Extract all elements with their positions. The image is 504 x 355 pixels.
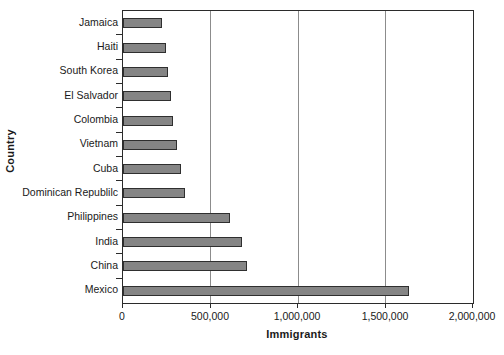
bar — [123, 164, 181, 174]
x-axis-tick — [385, 303, 386, 308]
y-axis-tick-label: Haiti — [14, 41, 118, 52]
x-axis-tick-label: 1,500,000 — [362, 310, 409, 322]
y-axis-tick-label: India — [14, 236, 118, 247]
x-axis-tick — [122, 303, 123, 308]
bar-chart: Country JamaicaHaitiSouth KoreaEl Salvad… — [0, 0, 504, 355]
x-axis-tick — [210, 303, 211, 308]
bar — [123, 188, 185, 198]
bar — [123, 213, 230, 223]
gridline — [385, 11, 386, 303]
x-axis-tick-label: 0 — [119, 310, 125, 322]
plot-area — [122, 10, 474, 304]
y-axis-tick-label: Dominican Republilc — [14, 187, 118, 198]
y-axis-tick-label: El Salvador — [14, 90, 118, 101]
bar — [123, 91, 171, 101]
y-axis-tick-label: Philippines — [14, 211, 118, 222]
y-axis-tick-labels: JamaicaHaitiSouth KoreaEl SalvadorColomb… — [14, 10, 118, 302]
gridline — [298, 11, 299, 303]
y-axis-tick-label: China — [14, 260, 118, 271]
y-axis-tick-label: Vietnam — [14, 138, 118, 149]
x-axis-tick — [472, 303, 473, 308]
y-axis-tick-label: Jamaica — [14, 17, 118, 28]
x-axis-tick-label: 500,000 — [191, 310, 229, 322]
y-axis-tick-label: South Korea — [14, 65, 118, 76]
y-axis-tick-label: Mexico — [14, 284, 118, 295]
x-axis-title: Immigrants — [122, 328, 472, 340]
bar — [123, 140, 177, 150]
bar — [123, 116, 173, 126]
y-axis-tick-label: Cuba — [14, 163, 118, 174]
bar — [123, 286, 409, 296]
bar — [123, 43, 166, 53]
bar — [123, 18, 162, 28]
gridline — [210, 11, 211, 303]
bar — [123, 237, 242, 247]
x-axis-tick — [297, 303, 298, 308]
x-axis-tick-label: 2,000,000 — [449, 310, 496, 322]
y-axis-tick-label: Colombia — [14, 114, 118, 125]
x-axis-tick-label: 1,000,000 — [274, 310, 321, 322]
bar — [123, 261, 247, 271]
bar — [123, 67, 168, 77]
